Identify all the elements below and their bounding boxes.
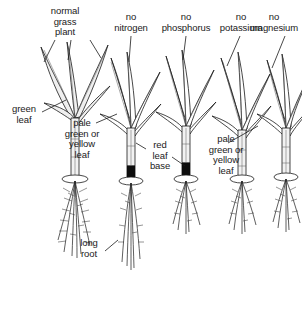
label-normal-grass-plant: normal grass plant — [34, 6, 96, 38]
root-system-no-nitrogen — [118, 183, 144, 270]
label-red-leaf-base: red leaf base — [146, 140, 174, 172]
label-pale-green-yellow-leaf-nitrogen: pale green or yellow leaf — [58, 118, 106, 160]
root-system-no-phosphorus — [173, 181, 200, 234]
label-pale-green-yellow-leaf-magnesium: pale green or yellow leaf — [200, 134, 252, 176]
plant-no-magnesium — [257, 54, 302, 232]
label-green-leaf: green leaf — [4, 104, 44, 125]
root-system-no-potassium — [229, 181, 256, 234]
label-long-root: long root — [72, 238, 106, 259]
label-no-magnesium: no magnesium — [246, 12, 302, 33]
diagram-figure: normal grass plant no nitrogen no phosph… — [0, 0, 302, 316]
root-system-no-magnesium — [273, 179, 300, 232]
